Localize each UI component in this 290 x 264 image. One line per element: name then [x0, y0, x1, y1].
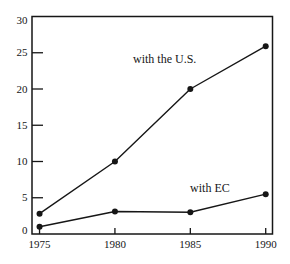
data-point-with-ec: [263, 191, 269, 197]
data-point-with-the-u-s: [187, 86, 193, 92]
y-tick-label: 15: [17, 119, 29, 131]
y-tick-label: 5: [22, 191, 28, 203]
x-tick-label: 1985: [179, 238, 202, 250]
line-chart: 0510152025301975198019851990with the U.S…: [0, 0, 290, 264]
y-tick-label: 25: [17, 46, 29, 58]
x-tick-label: 1975: [29, 238, 52, 250]
data-point-with-ec: [187, 209, 193, 215]
line-chart-figure: 0510152025301975198019851990with the U.S…: [0, 0, 290, 264]
x-tick-label: 1980: [104, 238, 127, 250]
series-line-with-the-u-s: [40, 46, 266, 213]
x-tick-label: 1990: [255, 238, 278, 250]
series-annotation-with-ec: with EC: [190, 181, 230, 195]
y-tick-label: 0: [22, 224, 28, 236]
y-tick-label: 30: [17, 14, 29, 26]
data-point-with-ec: [112, 209, 118, 215]
series-annotation-with-the-u-s: with the U.S.: [133, 52, 196, 66]
y-tick-label: 10: [17, 155, 29, 167]
data-point-with-the-u-s: [263, 43, 269, 49]
data-point-with-ec: [37, 224, 43, 230]
y-tick-label: 20: [17, 83, 29, 95]
data-point-with-the-u-s: [37, 211, 43, 217]
series-line-with-ec: [40, 194, 266, 227]
data-point-with-the-u-s: [112, 159, 118, 165]
